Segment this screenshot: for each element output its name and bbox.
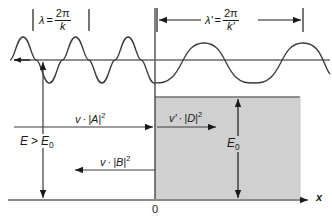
incident-flux-label: v·|A|2 — [75, 112, 105, 125]
lambda-left-symbol: λ — [39, 15, 44, 26]
diagram-canvas — [0, 0, 332, 223]
lambda-left-equals: = — [46, 15, 52, 26]
incident-flux-velocity: v — [75, 113, 81, 125]
transmitted-flux-amplitude: |D| — [184, 112, 198, 124]
lambda-right-symbol: λ' — [205, 15, 213, 26]
incident-flux-amplitude: |A| — [88, 113, 101, 125]
incident-flux-power: 2 — [101, 111, 105, 120]
step-height-label: E0 — [227, 137, 240, 152]
lambda-left-numerator: 2π — [55, 8, 71, 21]
reflected-flux-amplitude: |B| — [113, 156, 126, 168]
lambda-right-equals: = — [215, 15, 221, 26]
origin-label: 0 — [152, 204, 158, 215]
reflected-flux-power: 2 — [126, 154, 130, 163]
lambda-right-fraction: 2π k' — [223, 8, 239, 32]
transmitted-flux-power: 2 — [198, 110, 202, 119]
reflected-flux-velocity: v — [100, 156, 106, 168]
wave-scattering-diagram: λ = 2π k λ' = 2π k' v·|A|2 v'·|D|2 v·|B|… — [0, 0, 332, 223]
lambda-left-denominator: k — [55, 21, 71, 33]
transmitted-wave-curve — [155, 43, 330, 83]
energy-relation-label: E>E0 — [20, 135, 54, 150]
step-height-subscript: 0 — [235, 142, 240, 152]
lambda-right-numerator: 2π — [223, 8, 239, 21]
lambda-left-fraction: 2π k — [55, 8, 71, 32]
transmitted-flux-label: v'·|D|2 — [169, 111, 202, 124]
energy-relation-E0: E — [41, 134, 49, 148]
energy-relation-operator: > — [28, 134, 41, 148]
lambda-left-label: λ = 2π k — [39, 8, 71, 32]
energy-relation-E0-subscript: 0 — [49, 140, 54, 150]
transmitted-flux-velocity: v' — [169, 112, 177, 124]
lambda-right-label: λ' = 2π k' — [205, 8, 239, 32]
reflected-flux-label: v·|B|2 — [100, 155, 130, 168]
lambda-right-denominator: k' — [223, 21, 239, 33]
x-axis-label: x — [316, 192, 322, 203]
energy-relation-E: E — [20, 134, 28, 148]
step-height-E: E — [227, 136, 235, 150]
